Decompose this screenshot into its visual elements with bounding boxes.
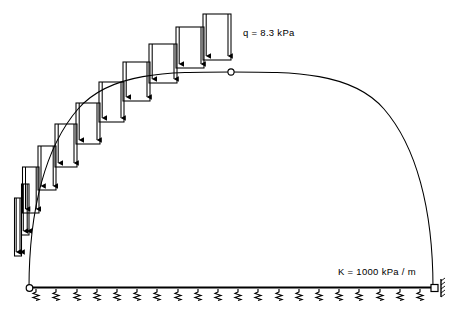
spring-icon <box>377 289 383 301</box>
spring-icon <box>397 289 403 301</box>
load-block <box>15 198 22 256</box>
spring-icon <box>114 289 120 301</box>
spring-icon <box>33 289 39 301</box>
spring-icon <box>195 289 201 301</box>
load-block <box>123 62 150 101</box>
load-block <box>76 103 100 144</box>
foundation-stiffness-label: K = 1000 kPa / m <box>338 266 416 277</box>
foundation-springs-group <box>33 289 423 301</box>
distributed-load-label: q = 8.3 kPa <box>243 27 295 38</box>
load-block <box>149 44 177 83</box>
spring-icon <box>276 289 282 301</box>
load-block <box>99 82 124 122</box>
arch-curve <box>29 72 433 288</box>
spring-icon <box>336 289 342 301</box>
spring-icon <box>215 289 221 301</box>
pin-support-icon <box>26 285 33 292</box>
left-pin-support-group <box>26 285 33 292</box>
load-block <box>55 124 77 167</box>
load-blocks-group <box>15 14 232 256</box>
spring-icon <box>417 289 423 301</box>
load-block <box>203 14 231 60</box>
spring-icon <box>296 289 302 301</box>
spring-icon <box>255 289 261 301</box>
spring-icon <box>94 289 100 301</box>
spring-icon <box>356 289 362 301</box>
spring-icon <box>134 289 140 301</box>
spring-icon <box>154 289 160 301</box>
arch-load-diagram: q = 8.3 kPa K = 1000 kPa / m <box>0 0 461 319</box>
load-block <box>38 146 56 190</box>
spring-icon <box>74 289 80 301</box>
spring-icon <box>235 289 241 301</box>
load-block <box>176 27 204 68</box>
arch-curve-group <box>29 72 433 288</box>
spring-icon <box>53 289 59 301</box>
crown-hinge-group <box>228 69 234 75</box>
spring-icon <box>175 289 181 301</box>
spring-icon <box>316 289 322 301</box>
roller-support-icon <box>431 285 438 292</box>
crown-hinge-icon <box>228 69 234 75</box>
load-block <box>23 167 40 213</box>
